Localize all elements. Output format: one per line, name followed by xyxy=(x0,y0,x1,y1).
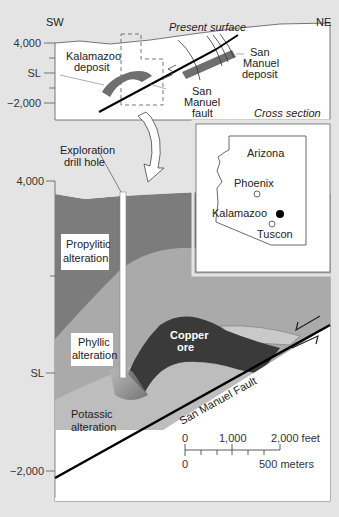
drill-hole-label-2: drill hole xyxy=(64,156,105,168)
exploration-drill-hole xyxy=(120,192,126,378)
porphyry-copper-diagram: SW NE Present surface 4,000 SL −2,000 xyxy=(0,0,339,517)
y-label-sl: SL xyxy=(31,367,44,379)
kalamazoo-label: Kalamazoo xyxy=(212,207,267,219)
present-surface-label: Present surface xyxy=(169,21,246,33)
phoenix-marker-icon xyxy=(254,191,260,197)
y-label-minus2000: −2,000 xyxy=(10,465,44,477)
y-label-4000: 4,000 xyxy=(13,37,41,49)
san-manuel-fault-label-3: fault xyxy=(192,107,213,119)
tuscon-marker-icon xyxy=(269,221,275,227)
y-label-minus2000: −2,000 xyxy=(7,97,41,109)
scale-feet-1000: 1,000 xyxy=(219,432,247,444)
cross-section-caption: Cross section xyxy=(254,107,321,119)
drill-hole-label: Exploration xyxy=(60,144,115,156)
scale-meters-0: 0 xyxy=(182,458,188,470)
cross-section-y-axis xyxy=(44,43,55,103)
potassic-label-2: alteration xyxy=(71,421,116,433)
tuscon-label: Tuscon xyxy=(257,228,293,240)
y-label-4000: 4,000 xyxy=(16,175,44,187)
potassic-label: Potassic xyxy=(71,408,113,420)
detail-y-axis xyxy=(46,181,55,471)
phyllic-label-2: alteration xyxy=(72,349,117,361)
zoom-arrow-icon xyxy=(138,112,164,182)
phoenix-label: Phoenix xyxy=(234,177,274,189)
copper-ore-label-2: ore xyxy=(177,341,194,353)
cross-section: SW NE Present surface 4,000 SL −2,000 xyxy=(7,16,331,120)
copper-ore-label: Copper xyxy=(170,329,209,341)
direction-ne: NE xyxy=(316,16,331,28)
locator-map: Arizona Phoenix Kalamazoo Tuscon xyxy=(193,121,333,275)
scale-feet-2000: 2,000 feet xyxy=(271,432,320,444)
direction-sw: SW xyxy=(46,16,64,28)
propylitic-label-2: alteration xyxy=(63,252,108,264)
san-manuel-deposit-label-3: deposit xyxy=(242,68,277,80)
phyllic-label: Phyllic xyxy=(78,336,110,348)
y-label-sl: SL xyxy=(28,67,41,79)
propylitic-label: Propylitic xyxy=(66,238,111,250)
kalamazoo-deposit-label-2: deposit xyxy=(74,61,109,73)
scale-feet-0: 0 xyxy=(182,432,188,444)
scale-meters-500: 500 meters xyxy=(259,458,315,470)
arizona-label: Arizona xyxy=(247,147,285,159)
kalamazoo-marker-icon xyxy=(276,210,284,218)
